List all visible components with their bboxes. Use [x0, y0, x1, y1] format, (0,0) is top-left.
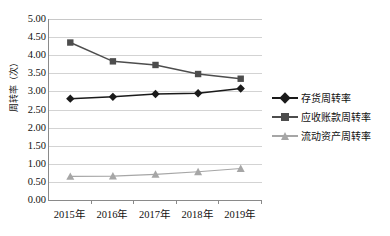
data-point-marker	[67, 39, 73, 45]
y-axis-tick-label: 2.00	[10, 122, 46, 134]
y-axis-tick-label: 0.00	[10, 194, 46, 206]
data-point-marker	[238, 76, 244, 82]
x-axis-tick-labels: 2015年2016年2017年2018年2019年	[0, 206, 330, 222]
data-point-marker	[237, 84, 245, 92]
data-point-marker	[194, 89, 202, 97]
x-axis-tickmark	[91, 200, 92, 204]
y-axis-tick-label: 3.00	[10, 85, 46, 97]
y-axis-tick-label: 1.00	[10, 158, 46, 170]
data-point-marker	[151, 90, 159, 98]
legend-key-icon	[272, 111, 298, 123]
x-axis-tickmark	[218, 200, 219, 204]
legend-label: 流动资产周转率	[298, 128, 371, 143]
data-point-marker	[110, 58, 116, 64]
data-point-marker	[195, 71, 201, 77]
y-axis-tick-label: 5.00	[10, 13, 46, 25]
x-axis-tickmark	[176, 200, 177, 204]
legend-item[interactable]: 流动资产周转率	[272, 126, 390, 145]
legend-key-icon	[272, 130, 298, 142]
series-line	[70, 43, 240, 79]
legend-label: 存货周转率	[298, 90, 351, 105]
data-point-marker	[152, 62, 158, 68]
series-layer	[49, 19, 262, 200]
legend-item[interactable]: 存货周转率	[272, 88, 390, 107]
y-axis-tick-label: 4.00	[10, 49, 46, 61]
legend-marker-icon	[279, 92, 290, 103]
data-point-marker	[109, 93, 117, 101]
x-axis-tick-label: 2019年	[210, 206, 270, 221]
legend: 存货周转率应收账款周转率流动资产周转率	[272, 88, 390, 145]
data-point-marker	[66, 94, 74, 102]
x-axis-tickmark	[261, 200, 262, 204]
plot-area	[48, 19, 262, 201]
y-axis-tick-labels: 5.004.504.003.503.002.502.001.501.000.50…	[10, 13, 46, 205]
legend-key-icon	[272, 92, 298, 104]
y-axis-tick-label: 0.50	[10, 176, 46, 188]
legend-marker-icon	[281, 113, 289, 121]
y-axis-tick-label: 2.50	[10, 104, 46, 116]
y-axis-tick-label: 3.50	[10, 67, 46, 79]
legend-item[interactable]: 应收账款周转率	[272, 107, 390, 126]
x-axis-tickmark	[133, 200, 134, 204]
line-chart: 周转率（次） 5.004.504.003.503.002.502.001.501…	[0, 0, 390, 236]
y-axis-tick-label: 4.50	[10, 31, 46, 43]
legend-label: 应收账款周转率	[298, 109, 371, 124]
y-axis-tick-label: 1.50	[10, 140, 46, 152]
legend-marker-icon	[281, 132, 289, 140]
